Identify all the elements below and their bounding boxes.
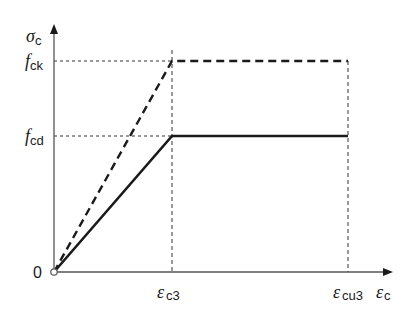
design-curve-solid: [54, 136, 348, 272]
x-tick-ec3: εc3: [157, 282, 180, 303]
stress-strain-diagram: σc fck fcd 0 εc3 εcu3 εc: [0, 0, 419, 314]
x-axis-label: εc: [376, 282, 391, 303]
origin-label: 0: [33, 264, 42, 281]
x-tick-ecu3: εcu3: [333, 282, 363, 303]
characteristic-curve-dashed: [54, 61, 348, 272]
y-tick-fcd: fcd: [25, 126, 44, 148]
y-tick-fck: fck: [25, 51, 44, 73]
y-axis-label: σc: [26, 26, 42, 48]
origin-marker: [51, 269, 57, 275]
